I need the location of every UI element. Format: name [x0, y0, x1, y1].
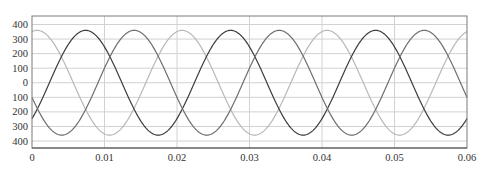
y-axis-tick-labels: 4003002001000100200300400: [12, 19, 28, 147]
y-tick-label: 200: [12, 48, 28, 59]
x-tick-label: 0.02: [168, 152, 186, 163]
x-axis-tick-labels: 00.010.020.030.040.050.06: [29, 152, 476, 163]
y-tick-label: 100: [12, 92, 28, 103]
y-tick-label: 400: [12, 19, 28, 30]
x-tick-label: 0.05: [385, 152, 403, 163]
x-tick-label: 0: [29, 152, 34, 163]
y-tick-label: 300: [12, 121, 28, 132]
y-tick-label: 300: [12, 34, 28, 45]
three-phase-line-chart: 4003002001000100200300400 00.010.020.030…: [0, 0, 493, 171]
y-tick-label: 100: [12, 63, 28, 74]
x-tick-label: 0.03: [240, 152, 258, 163]
x-tick-label: 0.04: [313, 152, 332, 163]
y-tick-label: 200: [12, 106, 28, 117]
x-tick-label: 0.06: [458, 152, 476, 163]
y-tick-label: 0: [23, 77, 28, 88]
y-tick-label: 400: [12, 136, 28, 147]
x-tick-label: 0.01: [95, 152, 113, 163]
